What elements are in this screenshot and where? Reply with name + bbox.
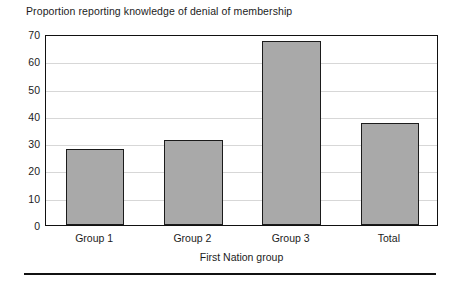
- x-tick-label: Total: [378, 232, 400, 245]
- bar: [66, 149, 124, 225]
- bar: [262, 41, 320, 225]
- y-tick-label: 40: [28, 111, 40, 122]
- y-tick-label: 70: [28, 30, 40, 41]
- y-tick-label: 0: [34, 221, 40, 232]
- bar-chart-figure: Proportion reporting knowledge of denial…: [0, 0, 455, 285]
- y-tick-label: 10: [28, 193, 40, 204]
- bar: [164, 140, 222, 225]
- y-tick-label: 50: [28, 84, 40, 95]
- plot-area: [45, 35, 438, 226]
- y-tick-label: 30: [28, 139, 40, 150]
- x-axis-title: First Nation group: [45, 251, 438, 264]
- x-axis: Group 1Group 2Group 3Total: [45, 232, 438, 248]
- y-axis: 010203040506070: [0, 35, 40, 226]
- bottom-rule: [24, 273, 436, 275]
- y-tick-label: 60: [28, 57, 40, 68]
- y-tick-label: 20: [28, 166, 40, 177]
- x-tick-label: Group 3: [272, 232, 310, 245]
- x-tick-label: Group 2: [173, 232, 211, 245]
- bars-layer: [46, 36, 437, 225]
- chart-title: Proportion reporting knowledge of denial…: [26, 5, 292, 18]
- bar: [361, 123, 419, 225]
- x-tick-label: Group 1: [75, 232, 113, 245]
